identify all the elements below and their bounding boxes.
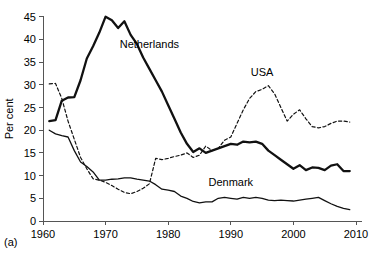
y-tick-label: 35 [24, 56, 36, 68]
chart-figure: 051015202530354045 196019701980199020002… [0, 0, 379, 253]
series-annotations: NetherlandsUSADenmark [120, 38, 274, 187]
series-paths [49, 17, 349, 210]
series-annotation-netherlands: Netherlands [120, 38, 180, 50]
y-axis-title: Per cent [3, 98, 15, 139]
y-tick-label: 30 [24, 79, 36, 91]
x-tick-label: 1970 [93, 228, 117, 240]
y-tick-label: 0 [30, 215, 36, 227]
series-line-usa [49, 83, 349, 193]
x-tick-label: 1990 [219, 228, 243, 240]
y-tick-label: 40 [24, 33, 36, 45]
panel-tag-label: (a) [4, 236, 17, 248]
x-tick-label: 2000 [281, 228, 305, 240]
y-tick-label: 15 [24, 147, 36, 159]
series-line-netherlands [49, 17, 349, 171]
y-axis-ticks: 051015202530354045 [24, 11, 43, 227]
y-tick-label: 5 [30, 192, 36, 204]
series-annotation-usa: USA [251, 66, 274, 78]
y-tick-label: 25 [24, 102, 36, 114]
y-tick-label: 20 [24, 124, 36, 136]
x-tick-label: 2010 [344, 228, 368, 240]
x-tick-label: 1980 [156, 228, 180, 240]
series-annotation-denmark: Denmark [208, 176, 253, 188]
x-tick-label: 1960 [31, 228, 55, 240]
x-axis-ticks: 196019701980199020002010 [31, 221, 368, 240]
y-tick-label: 45 [24, 11, 36, 23]
y-tick-label: 10 [24, 170, 36, 182]
line-chart: 051015202530354045 196019701980199020002… [0, 0, 379, 253]
